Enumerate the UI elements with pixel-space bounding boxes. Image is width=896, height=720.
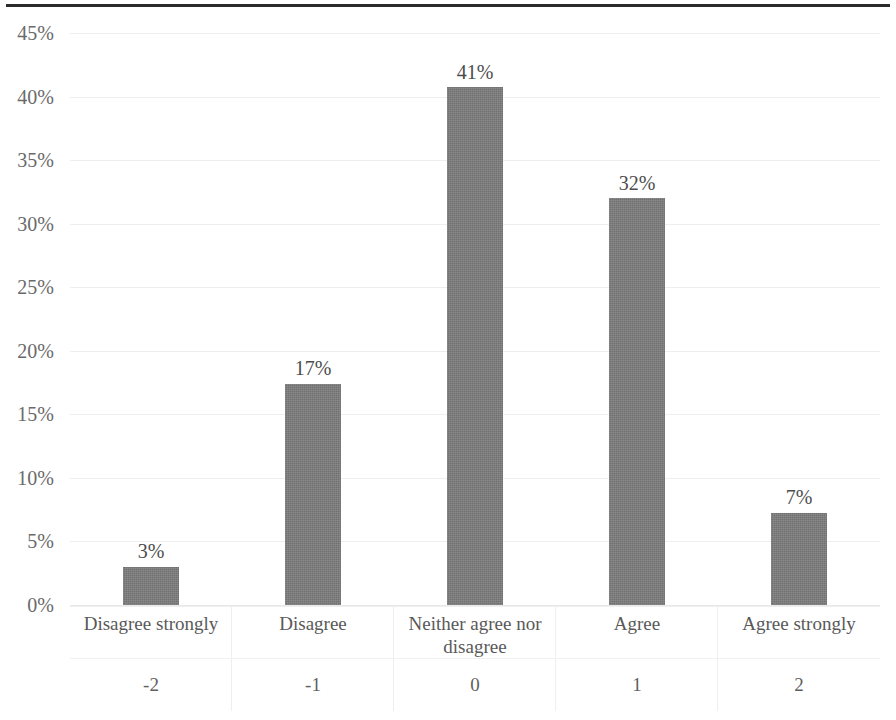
ytick-label-35: 35% (0, 150, 54, 170)
category-code-disagree-strongly: -2 (70, 658, 232, 711)
plot-area: 45% 40% 35% 30% 25% 20% 15% 10% 5% 0% 3%… (70, 33, 880, 605)
ytick-label-25: 25% (0, 277, 54, 297)
ytick-label-10: 10% (0, 468, 54, 488)
bar-slot-neither: 41% (394, 33, 556, 605)
bar-agree[interactable] (609, 198, 665, 605)
category-label-disagree: Disagree (232, 607, 394, 658)
category-label-neither-agree-nor-disagree: Neither agree nor disagree (394, 607, 556, 658)
category-code-neither-agree-nor-disagree: 0 (394, 658, 556, 711)
category-axis-table: Disagree strongly -2 Disagree -1 Neither… (70, 606, 880, 710)
ytick-label-5: 5% (0, 531, 54, 551)
ytick-label-40: 40% (0, 87, 54, 107)
bar-agree-strongly[interactable] (771, 513, 827, 606)
bar-label-agree: 32% (556, 173, 718, 193)
ytick-label-30: 30% (0, 214, 54, 234)
ytick-label-15: 15% (0, 404, 54, 424)
bar-neither-agree-nor-disagree[interactable] (447, 87, 503, 605)
ytick-label-0: 0% (0, 595, 54, 615)
ytick-label-45: 45% (0, 23, 54, 43)
category-label-disagree-strongly: Disagree strongly (70, 607, 232, 658)
category-column-disagree: Disagree -1 (232, 607, 394, 711)
bar-disagree[interactable] (285, 384, 341, 605)
bar-chart-figure: 45% 40% 35% 30% 25% 20% 15% 10% 5% 0% 3%… (0, 0, 896, 720)
category-column-disagree-strongly: Disagree strongly -2 (70, 607, 232, 711)
bar-slot-agree-strongly: 7% (718, 33, 880, 605)
category-code-disagree: -1 (232, 658, 394, 711)
category-label-agree-strongly: Agree strongly (718, 607, 880, 658)
category-column-neither: Neither agree nor disagree 0 (394, 607, 556, 711)
ytick-label-20: 20% (0, 341, 54, 361)
category-code-agree-strongly: 2 (718, 658, 880, 711)
category-code-agree: 1 (556, 658, 718, 711)
bar-slot-agree: 32% (556, 33, 718, 605)
category-column-agree-strongly: Agree strongly 2 (718, 607, 880, 711)
bar-label-disagree-strongly: 3% (70, 541, 232, 561)
bar-label-disagree: 17% (232, 358, 394, 378)
bar-disagree-strongly[interactable] (123, 567, 179, 605)
category-column-agree: Agree 1 (556, 607, 718, 711)
bar-label-neither-agree-nor-disagree: 41% (394, 62, 556, 82)
bar-slot-disagree: 17% (232, 33, 394, 605)
category-label-agree: Agree (556, 607, 718, 658)
bar-label-agree-strongly: 7% (718, 487, 880, 507)
bar-slot-disagree-strongly: 3% (70, 33, 232, 605)
